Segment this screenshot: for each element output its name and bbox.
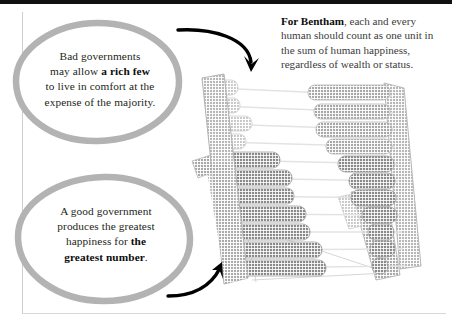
bubble-text-good-government: A good governmentproduces the greatestha… [34,204,178,265]
abacus-svg [186,66,452,316]
bubble-bad-governments: Bad governmentsmay allow a rich fewto li… [12,18,184,146]
bubble-good-government: A good governmentproduces the greatestha… [14,172,194,306]
abacus-row [212,80,390,100]
top-rule [0,0,452,4]
bentham-note: For Bentham, each and every human should… [281,14,447,72]
bubble-text-bad-governments: Bad governmentsmay allow a rich fewto li… [32,49,168,110]
page-root: Bad governmentsmay allow a rich fewto li… [0,0,452,326]
abacus-illustration [186,66,452,316]
